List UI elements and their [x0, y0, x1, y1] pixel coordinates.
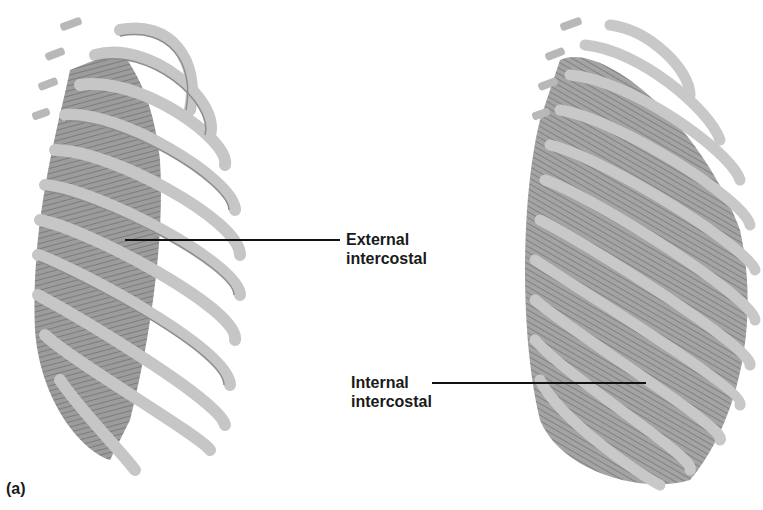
external-intercostal-label-line1: External — [346, 230, 427, 249]
internal-intercostal-leader-line — [432, 382, 646, 384]
internal-intercostal-label: Internal intercostal — [351, 373, 432, 411]
left-rib-cage — [31, 16, 240, 470]
panel-label: (a) — [6, 480, 26, 498]
right-rib-cage — [525, 16, 755, 485]
external-intercostal-label-line2: intercostal — [346, 249, 427, 268]
external-intercostal-label: External intercostal — [346, 230, 427, 268]
internal-intercostal-label-line1: Internal — [351, 373, 432, 392]
internal-intercostal-label-line2: intercostal — [351, 392, 432, 411]
external-intercostal-leader-line — [125, 239, 340, 241]
